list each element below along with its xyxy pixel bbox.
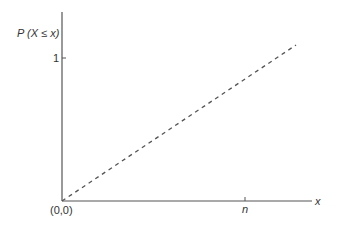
cdf-dashed-line <box>62 45 296 201</box>
origin-label: (0,0) <box>50 204 73 216</box>
x-axis-label: x <box>314 195 321 207</box>
cdf-chart: P (X ≤ x) 1 (0,0) n x <box>0 0 337 226</box>
y-tick-label-1: 1 <box>53 52 59 64</box>
x-tick-label-n: n <box>242 203 248 215</box>
y-axis-label: P (X ≤ x) <box>17 27 60 39</box>
